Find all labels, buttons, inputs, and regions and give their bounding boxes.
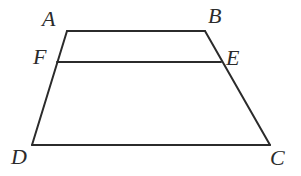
vertex-label-f: F bbox=[33, 46, 46, 68]
vertex-label-b: B bbox=[208, 5, 221, 27]
vertex-label-a: A bbox=[42, 8, 55, 30]
vertex-label-e: E bbox=[226, 47, 239, 69]
vertex-label-c: C bbox=[270, 147, 285, 169]
geometry-figure: A B F E D C bbox=[0, 0, 301, 176]
vertex-label-d: D bbox=[11, 146, 27, 168]
